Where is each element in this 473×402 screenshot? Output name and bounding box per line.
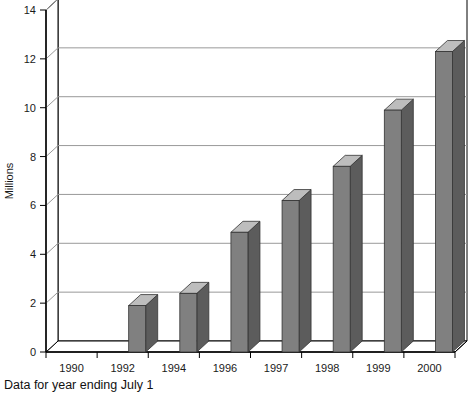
bar-chart: 02468101214Millions199019921994199619971… [0, 0, 473, 402]
y-tick-label: 0 [30, 346, 36, 358]
x-tick-label: 1998 [315, 362, 339, 374]
y-tick-label: 8 [30, 151, 36, 163]
x-tick-label: 1990 [59, 362, 83, 374]
bar-side-face [197, 282, 209, 352]
x-tick-label: 2000 [417, 362, 441, 374]
y-tick-label: 6 [30, 199, 36, 211]
y-tick-label: 12 [24, 53, 36, 65]
bar-front-face [180, 293, 197, 352]
bar-front-face [333, 166, 350, 352]
bar-side-face [248, 221, 260, 352]
chart-caption: Data for year ending July 1 [4, 378, 153, 392]
bar [333, 155, 362, 352]
y-tick-label: 10 [24, 102, 36, 114]
x-tick-label: 1994 [162, 362, 186, 374]
bar-front-face [384, 110, 401, 352]
y-axis-title: Millions [3, 162, 15, 199]
bar [231, 221, 260, 352]
x-tick-label: 1992 [110, 362, 134, 374]
chart-canvas: 02468101214Millions199019921994199619971… [0, 0, 473, 375]
bar-side-face [350, 155, 362, 352]
bar [129, 295, 158, 352]
bar-side-face [452, 41, 464, 352]
bar [384, 99, 413, 352]
bar-side-face [299, 190, 311, 352]
bar-side-face [401, 99, 413, 352]
y-tick-label: 4 [30, 248, 36, 260]
y-tick-label: 2 [30, 297, 36, 309]
bar-front-face [231, 232, 248, 352]
x-tick-label: 1997 [264, 362, 288, 374]
bar-front-face [282, 201, 299, 352]
x-tick-label: 1999 [366, 362, 390, 374]
bar-front-face [435, 52, 452, 352]
bar-front-face [129, 306, 146, 352]
bar [180, 282, 209, 352]
bar [435, 41, 464, 352]
y-tick-label: 14 [24, 4, 36, 16]
x-axis-ticks [46, 352, 455, 358]
bar [282, 190, 311, 352]
x-tick-label: 1996 [213, 362, 237, 374]
